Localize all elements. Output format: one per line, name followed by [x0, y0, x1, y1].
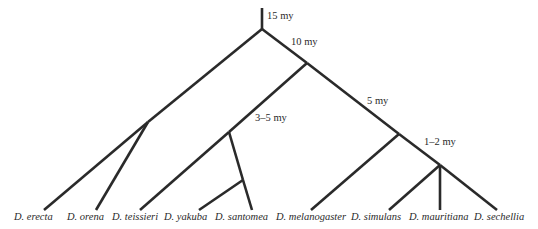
taxon-simulans: D. simulans [351, 211, 401, 222]
time-label-1-2my: 1–2 my [424, 136, 456, 147]
branch-yakuba-santomea-stem [229, 132, 243, 180]
branch-orena [96, 122, 148, 210]
taxon-santomea: D. santomea [215, 211, 268, 222]
taxon-melanogaster: D. melanogaster [276, 211, 346, 222]
branch-simulans [389, 165, 440, 210]
branch-erecta [44, 122, 148, 210]
time-label-3-5my: 3–5 my [255, 112, 287, 123]
taxon-yakuba: D. yakuba [164, 211, 207, 222]
taxon-orena: D. orena [67, 211, 104, 222]
branch-sechellia [440, 165, 497, 210]
branch-melanogaster [311, 134, 399, 210]
branch-santomea [243, 180, 252, 210]
branch-root-erecta-clade [148, 29, 262, 122]
time-label-10my: 10 my [291, 36, 318, 47]
taxon-teissieri: D. teissieri [112, 211, 158, 222]
taxon-sechellia: D. sechellia [474, 211, 524, 222]
time-label-5my: 5 my [367, 95, 388, 106]
taxon-erecta: D. erecta [14, 211, 53, 222]
branch-yakuba [199, 180, 243, 210]
taxon-mauritiana: D. mauritiana [409, 211, 469, 222]
time-label-15my: 15 my [267, 10, 294, 21]
